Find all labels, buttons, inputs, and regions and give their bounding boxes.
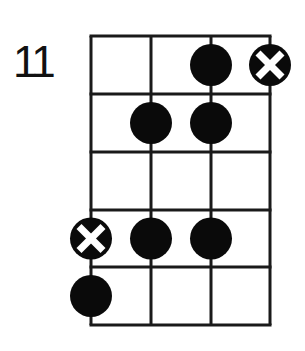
finger-dot-icon: [190, 102, 232, 144]
root-x-marker-icon: [70, 218, 112, 260]
finger-dot-icon: [70, 275, 112, 317]
finger-dot-icon: [130, 102, 172, 144]
root-x-marker-icon: [249, 44, 291, 86]
fretboard-diagram: [0, 0, 305, 351]
finger-dot-icon: [130, 218, 172, 260]
finger-dot-icon: [190, 218, 232, 260]
finger-dot-icon: [190, 44, 232, 86]
